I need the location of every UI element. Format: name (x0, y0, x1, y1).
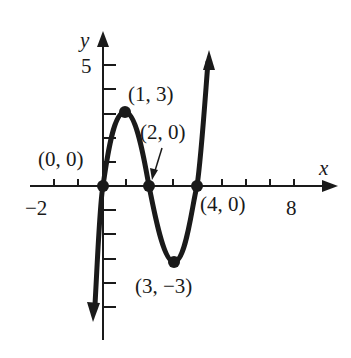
curve-end-arrow-bottom-icon (87, 302, 100, 322)
point-label-1-3: (1, 3) (128, 84, 174, 105)
point-label-4-0: (4, 0) (200, 194, 246, 215)
chart-canvas (0, 0, 351, 358)
y-axis-label: y (80, 30, 89, 51)
point-label-2-0: (2, 0) (140, 122, 186, 143)
y-tick-label-5: 5 (81, 56, 92, 77)
y-axis-arrow-icon (97, 31, 109, 47)
x-axis-label: x (319, 158, 328, 179)
annotation-pointer-arrow-icon (150, 168, 158, 180)
x-ticks (54, 179, 294, 186)
point-label-3-neg3: (3, −3) (135, 276, 192, 297)
point-label-0-0: (0, 0) (38, 149, 84, 170)
curve-end-arrow-top-icon (203, 50, 215, 70)
x-tick-label-8: 8 (286, 198, 297, 219)
x-tick-label-neg2: −2 (25, 198, 47, 219)
x-axis-arrow-icon (322, 180, 338, 192)
